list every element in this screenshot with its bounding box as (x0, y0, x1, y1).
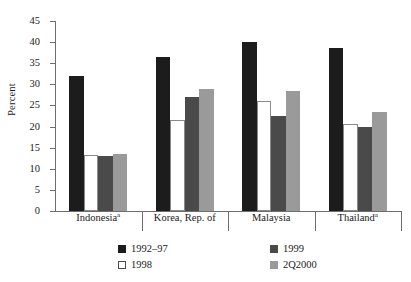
category-label: Thailanda (315, 212, 402, 224)
legend-label: 1992–97 (131, 243, 168, 254)
bar (113, 154, 128, 211)
y-axis-tick-label: 40 (10, 37, 40, 48)
bar-chart: Percent 051015202530354045 IndonesiaaKor… (0, 0, 411, 282)
y-axis-tick-label: 10 (10, 164, 40, 175)
category-separator (401, 211, 402, 231)
bar-group (55, 21, 142, 211)
bar (98, 156, 113, 211)
bar-group (142, 21, 229, 211)
bar (156, 57, 171, 211)
category-footnote-marker: a (375, 211, 378, 219)
bar (286, 91, 301, 211)
y-axis-tick-label: 0 (10, 206, 40, 217)
y-axis-tick-label: 30 (10, 79, 40, 90)
y-axis-tick-label: 5 (10, 185, 40, 196)
bar (329, 48, 344, 211)
y-axis-tick-label: 25 (10, 100, 40, 111)
bar (84, 155, 99, 211)
white-outlined-square-icon (118, 261, 126, 269)
legend-item: 1992–97 (118, 243, 168, 254)
bar-group (315, 21, 402, 211)
bar (257, 101, 272, 211)
legend-label: 1999 (283, 243, 304, 254)
light-gray-square-icon (270, 261, 278, 269)
bar (358, 127, 373, 211)
category-label: Korea, Rep. of (142, 212, 229, 224)
category-label: Malaysia (228, 212, 315, 224)
y-axis-tick-label: 35 (10, 58, 40, 69)
legend-item: 1999 (270, 243, 304, 254)
bar (271, 116, 286, 211)
legend-item: 1998 (118, 259, 152, 270)
bar (185, 97, 200, 211)
bar (372, 112, 387, 211)
category-label: Indonesiaa (55, 212, 142, 224)
y-axis-tick-label: 45 (10, 16, 40, 27)
dark-gray-square-icon (270, 245, 278, 253)
plot-area: 051015202530354045 (55, 21, 401, 211)
legend-item: 2Q2000 (270, 259, 317, 270)
category-footnote-marker: a (117, 211, 120, 219)
bar-group (228, 21, 315, 211)
y-axis-tick-label: 15 (10, 143, 40, 154)
chart-legend: 1992–97199819992Q2000 (118, 243, 393, 279)
y-axis-tick-label: 20 (10, 122, 40, 133)
black-filled-square-icon (118, 245, 126, 253)
bar (69, 76, 84, 211)
bar (242, 42, 257, 211)
legend-label: 1998 (131, 259, 152, 270)
legend-label: 2Q2000 (283, 259, 317, 270)
bar (343, 124, 358, 211)
bar (170, 120, 185, 211)
bar (199, 89, 214, 211)
